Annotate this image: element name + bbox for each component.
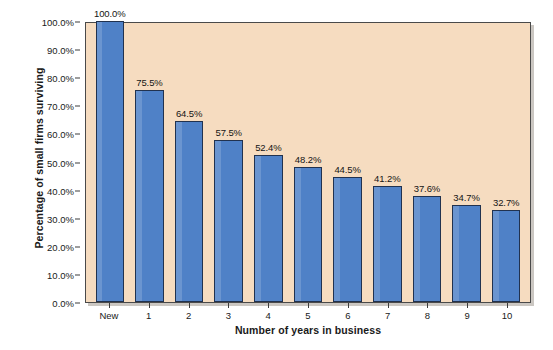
x-axis-tick-mark xyxy=(149,303,150,308)
y-axis-tick-mark xyxy=(75,106,80,107)
bar-slot: 100.0% xyxy=(90,23,130,302)
x-axis-tick-slot: 5 xyxy=(288,303,328,325)
bar[interactable] xyxy=(214,140,243,302)
bar-value-label: 44.5% xyxy=(334,164,360,175)
x-axis-tick-label: 1 xyxy=(146,310,151,321)
x-axis-tick-label: New xyxy=(99,310,118,321)
y-axis-tick-labels: 0.0%10.0%20.0%30.0%40.0%50.0%60.0%70.0%8… xyxy=(34,22,80,303)
x-axis-tick-slot: New xyxy=(89,303,129,325)
bar[interactable] xyxy=(452,205,481,303)
x-axis-tick-mark xyxy=(189,303,190,308)
x-axis-tick-label: 10 xyxy=(502,310,513,321)
bar[interactable] xyxy=(254,155,283,302)
bar[interactable] xyxy=(294,167,323,302)
bar-value-label: 37.6% xyxy=(414,183,440,194)
bar[interactable] xyxy=(333,177,362,302)
bar[interactable] xyxy=(96,21,125,302)
bar-slot: 32.7% xyxy=(486,23,526,302)
x-axis-tick-slot: 2 xyxy=(169,303,209,325)
y-axis-tick-mark xyxy=(75,78,80,79)
y-axis-tick-mark xyxy=(75,50,80,51)
bar-slot: 64.5% xyxy=(169,23,209,302)
x-axis-tick-slot: 1 xyxy=(129,303,169,325)
x-axis-tick-slot: 3 xyxy=(208,303,248,325)
y-axis-tick-label: 60.0% xyxy=(30,129,74,140)
y-axis-tick-label: 0.0% xyxy=(30,298,74,309)
x-axis-tick-label: 3 xyxy=(226,310,231,321)
plot-area: 100.0%75.5%64.5%57.5%52.4%48.2%44.5%41.2… xyxy=(86,23,530,302)
y-axis-tick-mark xyxy=(75,303,80,304)
x-axis-tick-mark xyxy=(467,303,468,308)
bar[interactable] xyxy=(373,186,402,302)
x-axis-tick-mark xyxy=(427,303,428,308)
plot-frame: 100.0%75.5%64.5%57.5%52.4%48.2%44.5%41.2… xyxy=(85,22,531,303)
x-axis-tick-slot: 10 xyxy=(487,303,527,325)
bar-slot: 44.5% xyxy=(328,23,368,302)
y-axis-tick-mark xyxy=(75,274,80,275)
x-axis-tick-slot: 7 xyxy=(368,303,408,325)
x-axis-tick-slot: 8 xyxy=(408,303,448,325)
x-axis-tick-label: 7 xyxy=(385,310,390,321)
x-axis-tick-slot: 9 xyxy=(447,303,487,325)
x-axis-tick-label: 6 xyxy=(345,310,350,321)
bar-value-label: 34.7% xyxy=(453,192,479,203)
x-axis-tick-label: 5 xyxy=(305,310,310,321)
x-axis-tick-mark xyxy=(348,303,349,308)
bar[interactable] xyxy=(492,210,521,302)
bar-slot: 41.2% xyxy=(367,23,407,302)
x-axis-tick-mark xyxy=(507,303,508,308)
y-axis-tick-mark xyxy=(75,22,80,23)
bar-slot: 34.7% xyxy=(447,23,487,302)
bar-value-label: 75.5% xyxy=(136,77,162,88)
bar-value-label: 64.5% xyxy=(176,108,202,119)
x-axis-title: Number of years in business xyxy=(85,324,531,336)
bar-slot: 75.5% xyxy=(130,23,170,302)
bar-value-label: 41.2% xyxy=(374,173,400,184)
x-axis-tick-slot: 4 xyxy=(248,303,288,325)
bar-value-label: 57.5% xyxy=(216,127,242,138)
y-axis-tick-label: 100.0% xyxy=(30,17,74,28)
x-axis-tick-labels: New12345678910 xyxy=(85,303,531,325)
y-axis-tick-label: 30.0% xyxy=(30,213,74,224)
y-axis-tick-mark xyxy=(75,218,80,219)
bar-slot: 52.4% xyxy=(249,23,289,302)
x-axis-tick-mark xyxy=(228,303,229,308)
bar-slot: 37.6% xyxy=(407,23,447,302)
y-axis-tick-label: 70.0% xyxy=(30,101,74,112)
bar-value-label: 52.4% xyxy=(255,142,281,153)
y-axis-tick-mark xyxy=(75,134,80,135)
bar-slot: 57.5% xyxy=(209,23,249,302)
bar-value-label: 100.0% xyxy=(94,8,126,19)
bar-chart-figure: Percentage of small firms surviving 0.0%… xyxy=(0,0,553,350)
x-axis-tick-label: 8 xyxy=(425,310,430,321)
bar[interactable] xyxy=(175,121,204,302)
x-axis-tick-mark xyxy=(109,303,110,308)
bar-slot: 48.2% xyxy=(288,23,328,302)
x-axis-tick-mark xyxy=(388,303,389,308)
y-axis-tick-label: 50.0% xyxy=(30,157,74,168)
y-axis-tick-label: 20.0% xyxy=(30,241,74,252)
x-axis-tick-label: 4 xyxy=(266,310,271,321)
x-axis-tick-label: 9 xyxy=(465,310,470,321)
x-axis-tick-mark xyxy=(308,303,309,308)
y-axis-tick-label: 80.0% xyxy=(30,73,74,84)
y-axis-tick-label: 40.0% xyxy=(30,185,74,196)
bar[interactable] xyxy=(135,90,164,302)
y-axis-tick-label: 90.0% xyxy=(30,45,74,56)
bar[interactable] xyxy=(413,196,442,302)
bar-value-label: 32.7% xyxy=(493,197,519,208)
bar-value-label: 48.2% xyxy=(295,154,321,165)
y-axis-tick-mark xyxy=(75,162,80,163)
x-axis-tick-label: 2 xyxy=(186,310,191,321)
y-axis-tick-label: 10.0% xyxy=(30,269,74,280)
y-axis-tick-mark xyxy=(75,190,80,191)
x-axis-tick-slot: 6 xyxy=(328,303,368,325)
x-axis-tick-mark xyxy=(268,303,269,308)
y-axis-tick-mark xyxy=(75,246,80,247)
